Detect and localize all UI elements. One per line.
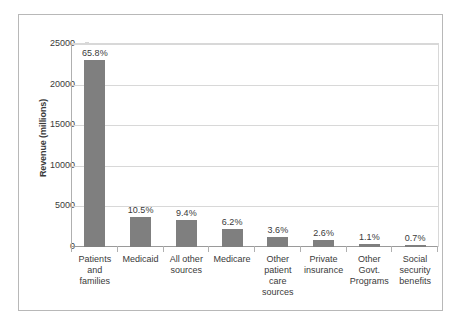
- x-axis-category-label: Otherpatientcaresources: [255, 254, 301, 298]
- category-label-line: Other: [348, 254, 392, 265]
- category-label-line: Programs: [348, 276, 392, 287]
- y-axis-tick-label: 5000: [33, 200, 75, 210]
- bar-slot[interactable]: 2.6%: [301, 44, 347, 247]
- y-axis-tick-label: 10000: [33, 160, 75, 170]
- category-label-line: benefits: [393, 276, 437, 287]
- bar-data-label: 6.2%: [222, 217, 243, 227]
- category-label-line: patient: [256, 265, 300, 276]
- category-label-line: Patients: [73, 254, 117, 265]
- bar[interactable]: [84, 60, 105, 247]
- bar[interactable]: [130, 217, 151, 247]
- plot-area: 65.8%10.5%9.4%6.2%3.6%2.6%1.1%0.7%: [71, 43, 439, 247]
- y-axis-tick-label: 25000: [33, 38, 75, 48]
- category-label-line: sources: [165, 265, 209, 276]
- x-axis-category-label: Privateinsurance: [301, 254, 347, 298]
- y-axis-tick-label: 20000: [33, 79, 75, 89]
- category-tick-marks: [71, 246, 438, 252]
- category-label-line: Private: [302, 254, 346, 265]
- bar-data-label: 3.6%: [268, 225, 289, 235]
- x-axis-category-label: All othersources: [164, 254, 210, 298]
- category-label-line: Other: [256, 254, 300, 265]
- bar-data-label: 65.8%: [82, 48, 108, 58]
- bar-slot[interactable]: 65.8%: [72, 44, 118, 247]
- bar[interactable]: [222, 229, 243, 247]
- category-tick-mark: [71, 246, 72, 252]
- category-label-line: sources: [256, 287, 300, 298]
- bar-data-label: 2.6%: [313, 228, 334, 238]
- category-tick-mark: [300, 246, 301, 252]
- bar-data-label: 0.7%: [405, 233, 426, 243]
- bar-slot[interactable]: 3.6%: [255, 44, 301, 247]
- category-label-line: Social: [393, 254, 437, 265]
- category-tick-mark: [254, 246, 255, 252]
- bar-slot[interactable]: 9.4%: [164, 44, 210, 247]
- bar-slot[interactable]: 10.5%: [118, 44, 164, 247]
- bar-slot[interactable]: 0.7%: [392, 44, 438, 247]
- x-axis-category-labels: PatientsandfamiliesMedicaidAll othersour…: [72, 254, 438, 298]
- category-tick-mark: [346, 246, 347, 252]
- bar[interactable]: [176, 220, 197, 247]
- category-label-line: and: [73, 265, 117, 276]
- x-axis-category-label: Medicaid: [118, 254, 164, 298]
- x-axis-category-label: OtherGovt.Programs: [347, 254, 393, 298]
- bar-data-label: 9.4%: [176, 208, 197, 218]
- bar-data-label: 10.5%: [128, 205, 154, 215]
- category-tick-mark: [437, 246, 438, 252]
- y-axis-tick-label: 15000: [33, 119, 75, 129]
- category-label-line: All other: [165, 254, 209, 265]
- category-label-line: families: [73, 276, 117, 287]
- y-axis-tick-label: 0: [33, 241, 75, 251]
- y-axis-tick-labels: 2500020000150001000050000: [33, 37, 75, 246]
- bar-series: 65.8%10.5%9.4%6.2%3.6%2.6%1.1%0.7%: [72, 44, 438, 247]
- x-axis-category-label: Socialsecuritybenefits: [392, 254, 438, 298]
- category-label-line: Govt.: [348, 265, 392, 276]
- category-label-line: Medicaid: [119, 254, 163, 265]
- category-label-line: care: [256, 276, 300, 287]
- bar-data-label: 1.1%: [359, 232, 380, 242]
- category-tick-mark: [208, 246, 209, 252]
- x-axis-category-label: Medicare: [209, 254, 255, 298]
- category-label-line: insurance: [302, 265, 346, 276]
- category-tick-mark: [163, 246, 164, 252]
- bar-slot[interactable]: 6.2%: [209, 44, 255, 247]
- chart-frame: Revenue (millions) 250002000015000100005…: [18, 14, 443, 311]
- category-tick-mark: [391, 246, 392, 252]
- category-tick-mark: [117, 246, 118, 252]
- category-label-line: Medicare: [210, 254, 254, 265]
- category-label-line: security: [393, 265, 437, 276]
- x-axis-category-label: Patientsandfamilies: [72, 254, 118, 298]
- bar-slot[interactable]: 1.1%: [347, 44, 393, 247]
